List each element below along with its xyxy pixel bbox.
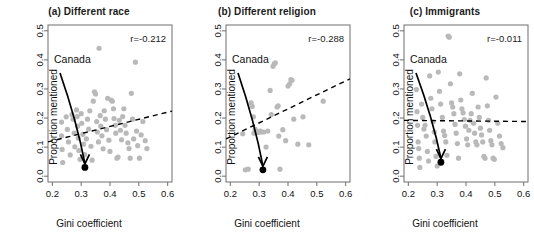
data-point bbox=[115, 154, 120, 159]
data-point bbox=[466, 128, 471, 133]
canada-annotation-label: Canada bbox=[410, 53, 447, 65]
plot-area: 0.20.30.40.50.60.00.10.20.30.40.5Canadar… bbox=[178, 0, 356, 233]
data-point bbox=[135, 143, 140, 148]
data-point bbox=[443, 139, 448, 144]
data-point bbox=[240, 131, 245, 136]
data-point bbox=[440, 115, 445, 120]
data-point bbox=[60, 147, 65, 152]
data-point bbox=[414, 87, 419, 92]
y-tick-label: 0.1 bbox=[212, 141, 223, 154]
data-point bbox=[68, 152, 73, 157]
canada-annotation-label: Canada bbox=[232, 53, 269, 65]
data-point bbox=[128, 156, 133, 161]
y-tick-label: 0.2 bbox=[212, 111, 223, 124]
figure-container: (a) Different raceProportion mentionedGi… bbox=[0, 0, 534, 233]
data-point bbox=[133, 60, 138, 65]
data-point bbox=[79, 121, 84, 126]
data-point bbox=[484, 75, 489, 80]
x-tick-label: 0.6 bbox=[339, 188, 352, 199]
data-point bbox=[96, 46, 101, 51]
canada-data-point bbox=[260, 166, 267, 173]
data-point bbox=[461, 110, 466, 115]
data-point bbox=[122, 123, 127, 128]
data-point bbox=[419, 101, 424, 106]
data-point bbox=[416, 146, 421, 151]
y-tick-label: 0.0 bbox=[390, 170, 401, 183]
x-tick-label: 0.5 bbox=[132, 188, 145, 199]
data-point bbox=[458, 97, 463, 102]
data-point bbox=[291, 117, 296, 122]
correlation-annotation: r=-0.212 bbox=[130, 33, 166, 44]
data-point bbox=[500, 145, 505, 150]
data-point bbox=[444, 153, 449, 158]
data-point bbox=[480, 139, 485, 144]
x-tick-label: 0.3 bbox=[431, 188, 444, 199]
panel-c: (c) ImmigrantsProportion mentionedGini c… bbox=[356, 0, 534, 233]
y-tick-label: 0.5 bbox=[212, 24, 223, 37]
data-point bbox=[429, 106, 434, 111]
data-point bbox=[246, 167, 251, 172]
data-point bbox=[268, 88, 273, 93]
y-tick-label: 0.4 bbox=[212, 53, 223, 66]
data-point bbox=[276, 103, 281, 108]
data-point bbox=[451, 111, 456, 116]
canada-arrow bbox=[416, 73, 441, 158]
panel-a: (a) Different raceProportion mentionedGi… bbox=[0, 0, 178, 233]
data-point bbox=[469, 111, 474, 116]
canada-data-point bbox=[438, 159, 445, 166]
data-point bbox=[120, 114, 125, 119]
data-point bbox=[118, 128, 123, 133]
data-point bbox=[125, 140, 130, 145]
data-point bbox=[139, 132, 144, 137]
data-point bbox=[119, 137, 124, 142]
panel-b: (b) Different religionProportion mention… bbox=[178, 0, 356, 233]
data-point bbox=[74, 107, 79, 112]
data-point bbox=[463, 124, 468, 129]
data-point bbox=[447, 35, 452, 40]
data-point bbox=[479, 132, 484, 137]
data-point bbox=[110, 99, 115, 104]
data-point bbox=[100, 146, 105, 151]
plot-area: 0.20.30.40.50.60.00.10.20.30.40.5Canadar… bbox=[0, 0, 178, 233]
data-point bbox=[144, 146, 149, 151]
data-point bbox=[465, 142, 470, 147]
x-tick-label: 0.5 bbox=[310, 188, 323, 199]
data-point bbox=[265, 129, 270, 134]
data-point bbox=[273, 60, 278, 65]
data-point bbox=[427, 73, 432, 78]
data-point bbox=[102, 108, 107, 113]
data-point bbox=[111, 116, 116, 121]
data-point bbox=[456, 156, 461, 161]
data-point bbox=[103, 117, 108, 122]
data-point bbox=[426, 158, 431, 163]
data-point bbox=[428, 96, 433, 101]
data-point bbox=[457, 71, 462, 76]
data-point bbox=[452, 122, 457, 127]
y-tick-label: 0.5 bbox=[34, 24, 45, 37]
canada-annotation-label: Canada bbox=[54, 53, 91, 65]
y-tick-label: 0.0 bbox=[212, 170, 223, 183]
data-point bbox=[437, 89, 442, 94]
data-point bbox=[107, 149, 112, 154]
data-point bbox=[420, 115, 425, 120]
data-point bbox=[415, 123, 420, 128]
data-point bbox=[476, 104, 481, 109]
y-tick-label: 0.2 bbox=[34, 111, 45, 124]
data-point bbox=[497, 133, 502, 138]
data-point bbox=[486, 118, 491, 123]
y-tick-label: 0.1 bbox=[34, 141, 45, 154]
data-point bbox=[450, 104, 455, 109]
data-point bbox=[106, 138, 111, 143]
data-point bbox=[306, 142, 311, 147]
data-point bbox=[277, 167, 282, 172]
data-point bbox=[90, 158, 95, 163]
y-tick-label: 0.4 bbox=[390, 53, 401, 66]
data-point bbox=[493, 95, 498, 100]
data-point bbox=[263, 145, 268, 150]
data-point bbox=[417, 165, 422, 170]
data-point bbox=[129, 91, 134, 96]
canada-arrow bbox=[238, 73, 263, 166]
data-point bbox=[417, 156, 422, 161]
y-tick-label: 0.4 bbox=[34, 53, 45, 66]
data-point bbox=[464, 136, 469, 141]
